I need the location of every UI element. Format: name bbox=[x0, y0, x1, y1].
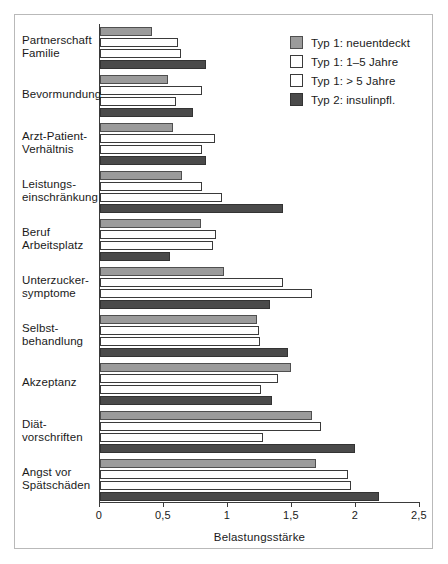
bar bbox=[100, 230, 216, 239]
bar bbox=[100, 49, 181, 58]
category-label: Leistungs-einschränkung bbox=[22, 178, 96, 205]
category-label: Diät-vorschriften bbox=[22, 418, 96, 445]
bar bbox=[100, 337, 260, 346]
legend-label: Typ 2: insulinpfl. bbox=[311, 94, 395, 106]
bar bbox=[100, 38, 178, 47]
category-label-line: Arzt-Patient- bbox=[22, 130, 96, 144]
legend-swatch-icon bbox=[290, 36, 303, 49]
category-label-line: Selbst- bbox=[22, 322, 96, 336]
x-tick bbox=[227, 502, 228, 507]
bar bbox=[100, 396, 272, 405]
bar bbox=[100, 145, 202, 154]
legend-swatch-icon bbox=[290, 74, 303, 87]
bar bbox=[100, 241, 213, 250]
bar bbox=[100, 492, 379, 501]
category-label-line: Leistungs- bbox=[22, 178, 96, 192]
bar bbox=[100, 108, 193, 117]
category-label-line: Bevormundung bbox=[22, 88, 96, 102]
bar bbox=[100, 459, 316, 468]
bar bbox=[100, 363, 291, 372]
category-label-line: Unterzucker- bbox=[22, 274, 96, 288]
legend-swatch-icon bbox=[290, 93, 303, 106]
legend-item: Typ 2: insulinpfl. bbox=[290, 90, 410, 109]
bar bbox=[100, 374, 278, 383]
category-label-line: Akzeptanz bbox=[22, 376, 96, 390]
bar bbox=[100, 86, 202, 95]
bar bbox=[100, 385, 261, 394]
bar bbox=[100, 193, 222, 202]
bar bbox=[100, 182, 202, 191]
x-tick-label: 1,5 bbox=[283, 509, 299, 521]
bar bbox=[100, 444, 355, 453]
chart-figure: PartnerschaftFamilieBevormundungArzt-Pat… bbox=[0, 0, 448, 564]
bar bbox=[100, 60, 206, 69]
bar bbox=[100, 134, 215, 143]
bar bbox=[100, 252, 170, 261]
x-tick-label: 1 bbox=[224, 509, 230, 521]
x-tick-label: 0,5 bbox=[155, 509, 171, 521]
x-axis-line bbox=[99, 502, 420, 503]
bar bbox=[100, 156, 206, 165]
category-label-line: Angst vor bbox=[22, 466, 96, 480]
bar bbox=[100, 278, 283, 287]
category-label: PartnerschaftFamilie bbox=[22, 34, 96, 61]
category-label: Unterzucker-symptome bbox=[22, 274, 96, 301]
bar bbox=[100, 204, 283, 213]
bar bbox=[100, 27, 152, 36]
category-label-line: Verhältnis bbox=[22, 143, 96, 157]
bar bbox=[100, 267, 224, 276]
bar bbox=[100, 433, 263, 442]
category-label: Selbst-behandlung bbox=[22, 322, 96, 349]
x-tick bbox=[163, 502, 164, 507]
category-label-line: Spätschäden bbox=[22, 479, 96, 493]
legend-label: Typ 1: neuentdeckt bbox=[311, 37, 410, 49]
category-label: Bevormundung bbox=[22, 88, 96, 102]
category-label-line: einschränkung bbox=[22, 191, 96, 205]
category-label: Akzeptanz bbox=[22, 376, 96, 390]
category-label-line: behandlung bbox=[22, 335, 96, 349]
category-label-line: Partnerschaft bbox=[22, 34, 96, 48]
bar bbox=[100, 326, 259, 335]
x-tick-label: 2,5 bbox=[411, 509, 427, 521]
category-label-line: Familie bbox=[22, 47, 96, 61]
x-tick-label: 2 bbox=[352, 509, 358, 521]
bar bbox=[100, 422, 321, 431]
legend-item: Typ 1: neuentdeckt bbox=[290, 33, 410, 52]
category-label-line: symptome bbox=[22, 287, 96, 301]
bar bbox=[100, 171, 182, 180]
category-label-line: Diät- bbox=[22, 418, 96, 432]
x-tick bbox=[355, 502, 356, 507]
x-tick bbox=[291, 502, 292, 507]
bar bbox=[100, 123, 173, 132]
x-tick bbox=[419, 502, 420, 507]
bar bbox=[100, 97, 176, 106]
category-label-line: Beruf bbox=[22, 226, 96, 240]
bar bbox=[100, 289, 312, 298]
category-label: Angst vorSpätschäden bbox=[22, 466, 96, 493]
category-label-line: Arbeitsplatz bbox=[22, 239, 96, 253]
x-axis-label: Belastungsstärke bbox=[99, 531, 420, 543]
category-label: Arzt-Patient-Verhältnis bbox=[22, 130, 96, 157]
x-tick-label: 0 bbox=[96, 509, 102, 521]
bar bbox=[100, 481, 351, 490]
category-label: BerufArbeitsplatz bbox=[22, 226, 96, 253]
bar bbox=[100, 348, 288, 357]
bar bbox=[100, 75, 168, 84]
bar bbox=[100, 315, 257, 324]
legend-swatch-icon bbox=[290, 55, 303, 68]
legend-item: Typ 1: > 5 Jahre bbox=[290, 71, 410, 90]
legend-label: Typ 1: 1–5 Jahre bbox=[311, 56, 398, 68]
legend-item: Typ 1: 1–5 Jahre bbox=[290, 52, 410, 71]
bar bbox=[100, 300, 270, 309]
legend-label: Typ 1: > 5 Jahre bbox=[311, 75, 395, 87]
bar bbox=[100, 219, 201, 228]
category-label-line: vorschriften bbox=[22, 431, 96, 445]
bar bbox=[100, 470, 348, 479]
x-tick bbox=[99, 502, 100, 507]
bar bbox=[100, 411, 312, 420]
chart-legend: Typ 1: neuentdecktTyp 1: 1–5 JahreTyp 1:… bbox=[290, 33, 410, 109]
